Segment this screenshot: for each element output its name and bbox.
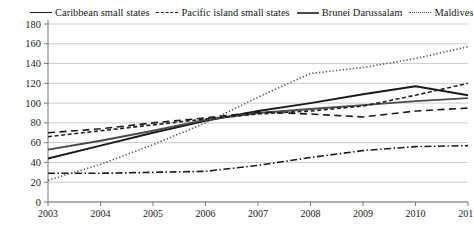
y-tick-label: 80 — [31, 117, 42, 128]
series-line — [48, 108, 468, 133]
y-tick-label: 60 — [31, 137, 42, 148]
x-tick-label: 2007 — [248, 208, 268, 219]
y-axis-ticks: 020406080100120140160180 — [25, 19, 48, 208]
x-tick-label: 2003 — [38, 208, 58, 219]
series-line — [48, 98, 468, 149]
series-line — [48, 146, 468, 174]
x-axis-ticks: 200320042005200620072008200920102011 — [38, 202, 474, 219]
y-tick-label: 160 — [25, 38, 41, 49]
y-tick-label: 0 — [36, 197, 41, 208]
y-tick-label: 140 — [25, 58, 41, 69]
x-tick-label: 2006 — [196, 208, 216, 219]
y-tick-label: 20 — [31, 177, 42, 188]
x-tick-label: 2009 — [353, 208, 373, 219]
series-layer — [48, 47, 468, 181]
x-tick-label: 2010 — [406, 208, 426, 219]
y-tick-label: 100 — [25, 98, 41, 109]
line-chart: Caribbean small statesPacific island sma… — [0, 0, 474, 227]
plot-area: 020406080100120140160180 200320042005200… — [0, 0, 474, 227]
y-tick-label: 40 — [31, 157, 42, 168]
y-tick-label: 180 — [25, 19, 41, 30]
x-tick-label: 2008 — [301, 208, 321, 219]
y-tick-label: 120 — [25, 78, 41, 89]
x-tick-label: 2005 — [143, 208, 163, 219]
x-tick-label: 2011 — [458, 208, 474, 219]
x-tick-label: 2004 — [91, 208, 111, 219]
series-line — [48, 83, 468, 136]
